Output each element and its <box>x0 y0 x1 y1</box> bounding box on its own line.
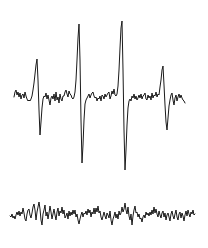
plot-background <box>0 0 208 248</box>
signal-figure <box>0 0 208 248</box>
signal-plot <box>0 0 208 248</box>
